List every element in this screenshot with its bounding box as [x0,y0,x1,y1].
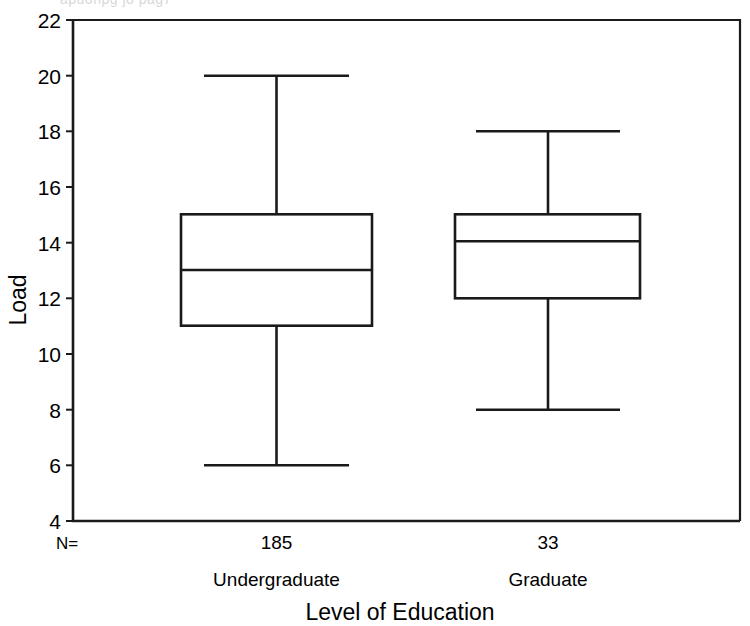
ytick-label-4: 4 [49,510,61,533]
box-graduate [455,131,640,409]
ytick-label-8: 8 [49,399,61,422]
category-label-undergraduate: Undergraduate [213,569,340,590]
n-count-undergraduate: 185 [261,532,293,553]
ytick-label-10: 10 [38,343,61,366]
n-count-graduate: 33 [537,532,558,553]
n-prefix-label: N= [56,534,78,553]
ytick-label-22: 22 [38,9,61,32]
category-label-graduate: Graduate [508,569,587,590]
x-axis-labels: N= 185 33 Undergraduate Graduate [56,532,588,590]
ytick-label-18: 18 [38,120,61,143]
x-axis-title: Level of Education [305,599,494,625]
ytick-label-14: 14 [38,232,62,255]
y-axis-tick-labels: 22 20 18 16 14 12 10 8 6 4 [38,9,62,533]
boxplot-chart: 22 20 18 16 14 12 10 8 6 4 Load [0,0,750,626]
ytick-label-20: 20 [38,65,61,88]
ytick-label-12: 12 [38,287,61,310]
y-axis-title: Load [5,274,31,325]
ytick-label-16: 16 [38,176,61,199]
boxplot-figure: apuonpg jo pag7 22 20 18 16 14 12 10 [0,0,750,626]
ytick-label-6: 6 [49,454,61,477]
box-undergraduate [181,76,372,466]
